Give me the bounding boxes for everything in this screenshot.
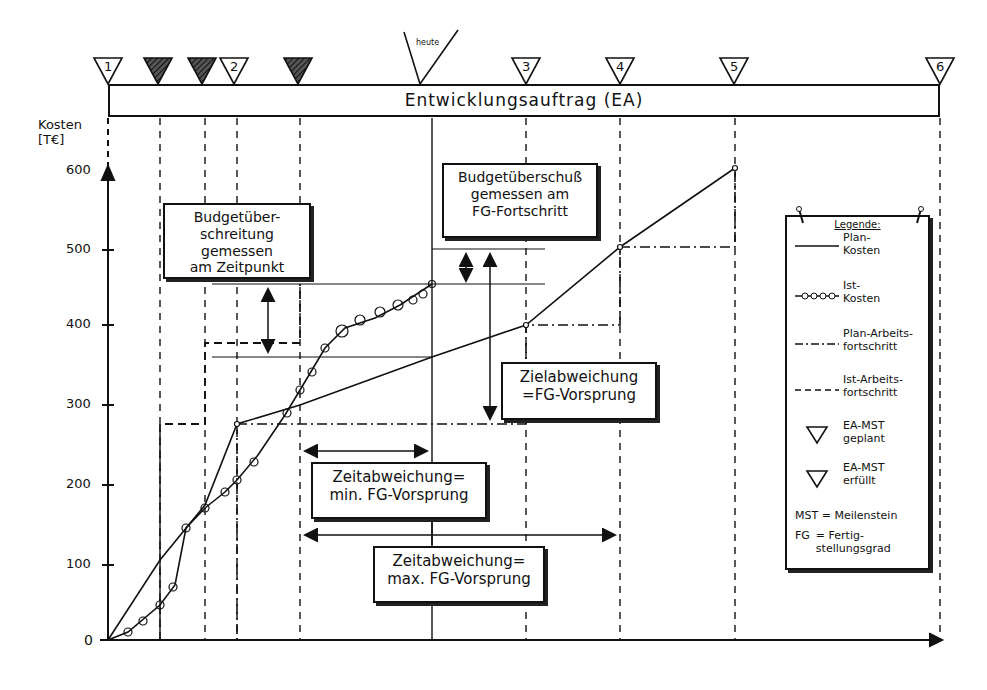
- annotation-time-deviation-max: Zeitabweichung= max. FG-Vorsprung: [373, 546, 545, 603]
- y-tick: 100: [66, 557, 91, 572]
- legend-item-mst-erfuellt: EA-MST erfüllt: [843, 461, 884, 487]
- y-tick: 600: [66, 163, 91, 178]
- legend-abbr-fg: FG = Fertig- stellungsgrad: [795, 529, 891, 555]
- milestone-fulfilled-icon: [188, 58, 216, 84]
- dash-dot-line-icon: [795, 337, 839, 351]
- milestone-label: 5: [730, 60, 738, 75]
- annotation-budget-surplus-fg: Budgetüberschuß gemessen am FG-Fortschri…: [442, 163, 598, 238]
- abbr-text: = Fertig- stellungsgrad: [816, 529, 891, 555]
- milestone-label: 2: [230, 60, 238, 75]
- abbr-text: = Meilenstein: [822, 509, 898, 522]
- annotation-target-deviation: Zielabweichung =FG-Vorsprung: [501, 362, 657, 420]
- solid-line-icon: [795, 239, 839, 253]
- y-tick: 500: [66, 242, 91, 257]
- milestone-triangles: [94, 30, 954, 84]
- milestone-fulfilled-icon: [284, 58, 312, 84]
- milestone-label: 6: [936, 60, 944, 75]
- y-axis: [102, 118, 114, 640]
- legend-item-plan-arbeitsfortschritt: Plan-Arbeits- fortschritt: [843, 327, 913, 353]
- milestone-fulfilled-icon: [805, 469, 829, 489]
- legend-abbr-mst: MST = Meilenstein: [795, 509, 897, 522]
- project-band: Entwicklungsauftrag (EA): [108, 84, 940, 117]
- milestone-label: 1: [104, 60, 112, 75]
- abbr: FG: [795, 529, 810, 555]
- legend-item-ist-arbeitsfortschritt: Ist-Arbeits- fortschritt: [843, 373, 903, 399]
- y-axis-label-line1: Kosten: [38, 118, 82, 133]
- milestone-label: 3: [522, 60, 530, 75]
- y-tick: 300: [66, 397, 91, 412]
- abbr: MST: [795, 509, 818, 522]
- today-label: heute: [416, 38, 439, 47]
- milestone-label: 4: [616, 60, 624, 75]
- legend-item-plan-kosten: Plan- Kosten: [843, 231, 880, 257]
- legend: Legende: Plan- Kosten Ist- Kosten Plan-A…: [785, 215, 930, 570]
- legend-item-mst-geplant: EA-MST geplant: [843, 419, 885, 445]
- circle-line-icon: [795, 289, 839, 303]
- annotation-time-deviation-min: Zeitabweichung= min. FG-Vorsprung: [311, 462, 487, 519]
- dashed-line-icon: [795, 383, 839, 397]
- y-tick: 0: [84, 632, 93, 648]
- y-axis-label-line2: [T€]: [38, 133, 82, 148]
- annotation-budget-overrun-time: Budgetüber- schreitung gemessen am Zeitp…: [163, 203, 311, 279]
- legend-item-ist-kosten: Ist- Kosten: [843, 279, 880, 305]
- y-axis-label: Kosten [T€]: [38, 118, 82, 148]
- y-tick: 200: [66, 477, 91, 492]
- y-tick: 400: [66, 317, 91, 332]
- x-axis: [100, 634, 942, 646]
- milestone-planned-icon: [805, 425, 829, 445]
- series-ist-arbeitsfortschritt: [160, 284, 300, 640]
- milestone-fulfilled-icon: [144, 58, 172, 84]
- legend-title: Legende:: [787, 219, 928, 230]
